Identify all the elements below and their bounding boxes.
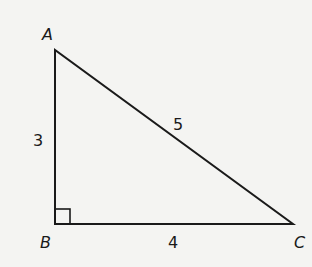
side-label-bc: 4 [168, 233, 178, 252]
side-label-ab: 3 [33, 131, 43, 150]
vertex-label-b: B [40, 233, 51, 252]
triangle-diagram: A B C 3 4 5 [0, 0, 312, 267]
vertex-label-a: A [41, 25, 53, 44]
right-angle-marker [55, 209, 70, 224]
triangle-abc [55, 50, 293, 224]
side-label-ac: 5 [173, 115, 183, 134]
vertex-label-c: C [294, 233, 306, 252]
